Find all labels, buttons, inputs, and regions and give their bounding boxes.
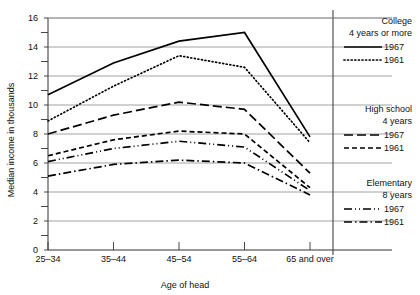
x-tick-label-1: 35–44 xyxy=(101,254,126,264)
legend-group-title-0-line1: College xyxy=(381,16,412,26)
legend-label-0-1: 1961 xyxy=(384,55,404,65)
legend-label-2-1: 1961 xyxy=(384,217,404,227)
y-tick-label-4: 4 xyxy=(33,187,38,197)
y-tick-label-6: 6 xyxy=(33,158,38,168)
y-tick-label-2: 2 xyxy=(33,216,38,226)
data-series-layer xyxy=(48,33,310,195)
series-line-0 xyxy=(48,33,310,137)
legend-group-title-2-line2: 8 years xyxy=(382,190,412,200)
chart-figure: 0246810121416 25–3435–4445–5455–6465 and… xyxy=(0,0,420,295)
legend-group-title-1-line1: High school xyxy=(365,104,412,114)
y-tick-label-16: 16 xyxy=(28,13,38,23)
y-axis-major-ticks xyxy=(44,18,48,250)
legend-group-title-0-line2: 4 years or more xyxy=(349,28,412,38)
y-tick-label-14: 14 xyxy=(28,42,38,52)
legend-label-2-0: 1967 xyxy=(384,204,404,214)
x-axis-title: Age of head xyxy=(161,280,210,290)
x-tick-label-2: 45–54 xyxy=(166,254,191,264)
line-chart: 0246810121416 25–3435–4445–5455–6465 and… xyxy=(0,0,420,295)
series-line-3 xyxy=(48,131,310,188)
legend-label-1-0: 1967 xyxy=(384,130,404,140)
x-tick-label-4: 65 and over xyxy=(286,254,334,264)
series-line-1 xyxy=(48,56,310,143)
legend-label-1-1: 1961 xyxy=(384,143,404,153)
series-line-2 xyxy=(48,102,310,173)
legend-label-0-0: 1967 xyxy=(384,42,404,52)
y-tick-label-8: 8 xyxy=(33,129,38,139)
x-tick-label-3: 55–64 xyxy=(232,254,257,264)
x-axis-ticks xyxy=(48,242,310,250)
legend-group-title-2-line1: Elementary xyxy=(366,178,412,188)
y-tick-label-10: 10 xyxy=(28,100,38,110)
series-line-4 xyxy=(48,141,310,190)
y-axis-title: Median income in thousands xyxy=(6,82,16,197)
y-axis-tick-labels: 0246810121416 xyxy=(28,13,38,255)
x-tick-label-0: 25–34 xyxy=(35,254,60,264)
legend-group-title-1-line2: 4 years xyxy=(382,116,412,126)
chart-legend: College4 years or more19671961High schoo… xyxy=(344,16,412,227)
x-axis-tick-labels: 25–3435–4445–5455–6465 and over xyxy=(35,254,333,264)
y-tick-label-12: 12 xyxy=(28,71,38,81)
